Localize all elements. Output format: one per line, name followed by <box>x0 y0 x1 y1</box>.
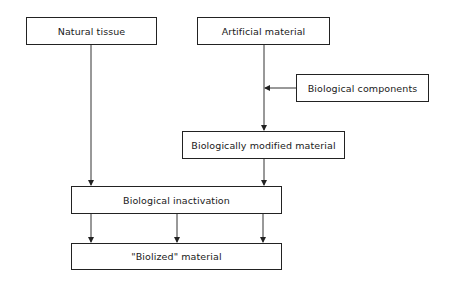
node-label: Biologically modified material <box>191 140 335 151</box>
node-biolized-material: "Biolized" material <box>71 243 282 270</box>
node-label: Artificial material <box>222 26 306 37</box>
node-label: Natural tissue <box>58 26 126 37</box>
node-label: "Biolized" material <box>131 251 221 262</box>
node-label: Biological inactivation <box>123 195 230 206</box>
node-natural-tissue: Natural tissue <box>26 17 157 45</box>
node-biological-components: Biological components <box>296 74 429 102</box>
node-label: Biological components <box>308 83 418 94</box>
node-biologically-modified-material: Biologically modified material <box>182 131 345 159</box>
node-artificial-material: Artificial material <box>197 17 330 45</box>
node-biological-inactivation: Biological inactivation <box>71 186 282 214</box>
